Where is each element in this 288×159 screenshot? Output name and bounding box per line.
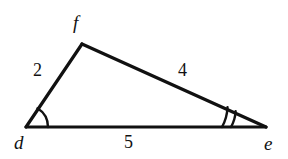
side-length-label-fe: 4 <box>178 61 187 79</box>
angle-arc-d-icon <box>38 108 49 127</box>
angle-arc-e-outer-icon <box>222 107 228 127</box>
triangle-figure: d e f 2 4 5 <box>0 0 288 159</box>
triangle-side-df <box>26 44 82 127</box>
vertex-label-e: e <box>264 134 272 153</box>
side-length-label-df: 2 <box>33 61 42 79</box>
vertex-label-f: f <box>73 13 78 32</box>
triangle-svg <box>0 0 288 159</box>
triangle-side-fe <box>82 44 266 127</box>
side-length-label-de: 5 <box>124 133 133 151</box>
vertex-label-d: d <box>14 133 24 152</box>
